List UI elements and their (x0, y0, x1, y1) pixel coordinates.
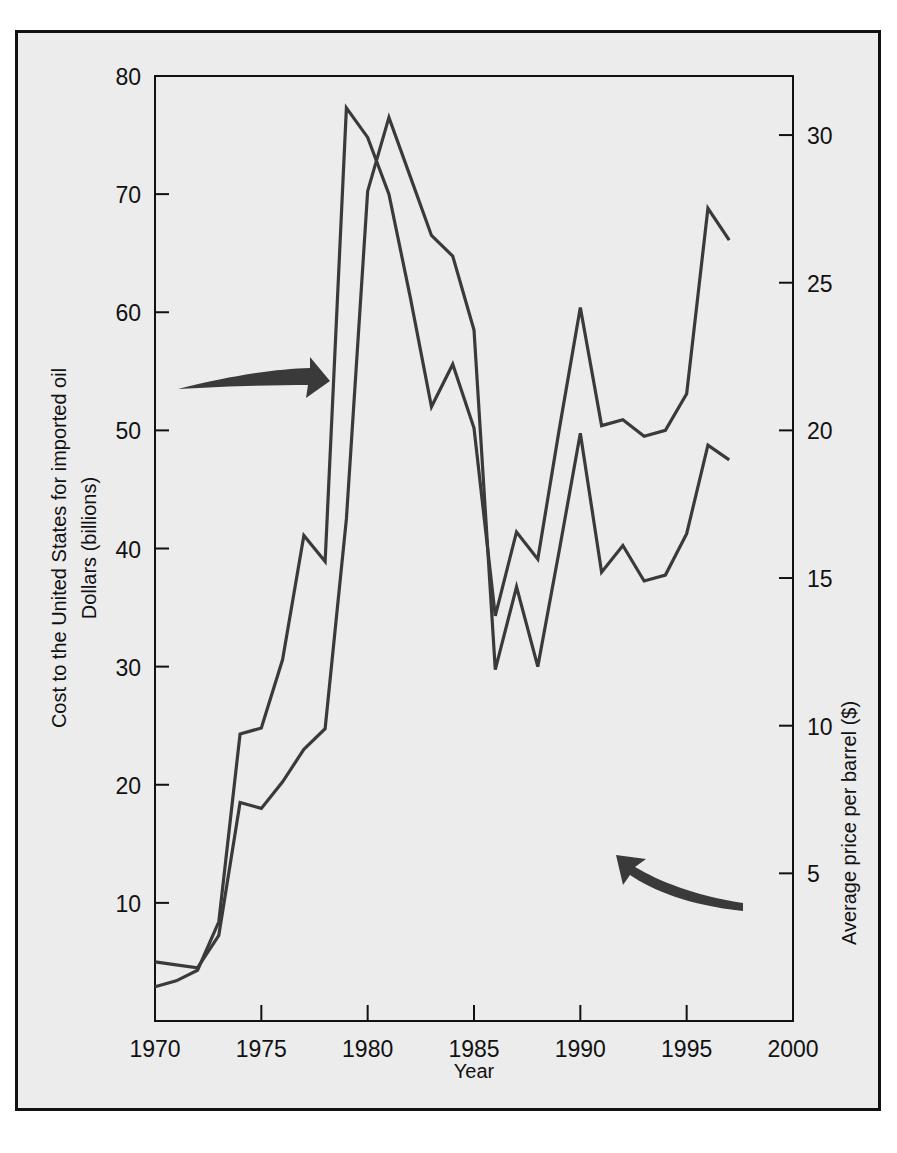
right-axis-tick-labels: 51015202530 (807, 123, 833, 887)
left-tick-label: 40 (115, 537, 141, 563)
x-tick-label: 1975 (236, 1036, 287, 1062)
x-tick-label: 1990 (555, 1036, 606, 1062)
right-tick-label: 25 (807, 271, 833, 297)
arrow-right-icon (178, 357, 330, 398)
left-tick-label: 10 (115, 891, 141, 917)
right-tick-label: 10 (807, 714, 833, 740)
line-chart-svg: 1020304050607080 51015202530 19701975198… (18, 33, 884, 1114)
right-axis-ticks (779, 135, 793, 873)
right-tick-label: 15 (807, 566, 833, 592)
right-tick-label: 30 (807, 123, 833, 149)
x-tick-label: 1980 (342, 1036, 393, 1062)
x-axis-ticks (261, 1005, 686, 1021)
chart-plot-area: 1020304050607080 51015202530 19701975198… (18, 33, 884, 1114)
figure-frame: 1020304050607080 51015202530 19701975198… (15, 30, 881, 1111)
left-tick-label: 70 (115, 182, 141, 208)
arrow-left-icon (616, 855, 743, 911)
x-tick-label: 1985 (448, 1036, 499, 1062)
price-line-series (155, 117, 729, 968)
left-axis-ticks (155, 194, 169, 903)
left-tick-label: 20 (115, 773, 141, 799)
left-tick-label: 50 (115, 418, 141, 444)
left-tick-label: 60 (115, 300, 141, 326)
x-tick-label: 1995 (661, 1036, 712, 1062)
x-tick-label: 1970 (129, 1036, 180, 1062)
arrow-to-cost-curve (178, 357, 330, 398)
x-tick-label: 2000 (767, 1036, 818, 1062)
cost-line-series (155, 108, 729, 987)
left-tick-label: 80 (115, 64, 141, 90)
plot-border (155, 76, 793, 1021)
left-axis-tick-labels: 1020304050607080 (115, 64, 141, 917)
chart-page: 1020304050607080 51015202530 19701975198… (0, 0, 897, 1153)
arrow-to-price-curve (616, 855, 743, 911)
left-tick-label: 30 (115, 655, 141, 681)
right-tick-label: 20 (807, 418, 833, 444)
y-axis-title-line2: Dollars (billions) (78, 477, 100, 619)
y2-axis-title: Average price per barrel ($) (838, 701, 860, 945)
x-axis-title: Year (454, 1060, 495, 1082)
y-axis-title-line1: Cost to the United States for imported o… (48, 368, 70, 728)
right-tick-label: 5 (807, 861, 820, 887)
x-axis-tick-labels: 1970197519801985199019952000 (129, 1036, 818, 1062)
